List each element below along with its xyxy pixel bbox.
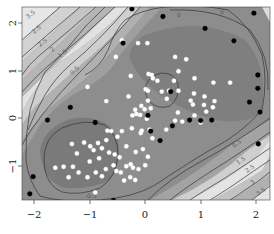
x-tick-label: 1 — [198, 209, 204, 220]
training-point — [143, 163, 147, 167]
training-point — [228, 80, 232, 84]
support-vector-point — [148, 129, 153, 134]
support-vector-point — [158, 138, 163, 143]
training-point — [66, 175, 70, 179]
training-point — [114, 55, 118, 59]
support-vector-point — [255, 86, 260, 91]
support-vector-point — [258, 110, 263, 115]
support-vector-point — [209, 118, 214, 123]
training-point — [88, 159, 92, 163]
x-tick-label: 0 — [142, 209, 148, 220]
training-point — [142, 107, 146, 111]
y-axis: 2 1 0 −1 — [7, 20, 22, 174]
training-point — [173, 55, 177, 59]
support-vector-point — [27, 191, 32, 196]
training-point — [211, 80, 215, 84]
training-point — [122, 178, 126, 182]
training-point — [82, 140, 86, 144]
plot-area: 3.5 2.5 2.5 2 1.5 0.5 0 0 -0.5 0.5 1.5 2… — [22, 6, 270, 203]
training-point — [104, 167, 108, 171]
training-point — [104, 138, 108, 142]
training-point — [113, 152, 117, 156]
training-point — [70, 142, 74, 146]
training-point — [141, 147, 145, 151]
training-point — [88, 144, 92, 148]
y-tick-label: −1 — [7, 159, 18, 174]
x-tick-label: −1 — [83, 209, 98, 220]
training-point — [192, 113, 196, 117]
training-point — [109, 129, 113, 133]
training-point — [191, 102, 195, 106]
support-vector-point — [45, 118, 50, 123]
training-point — [130, 113, 134, 117]
x-tick-label: 2 — [253, 209, 259, 220]
training-point — [100, 174, 104, 178]
training-point — [202, 94, 206, 98]
training-point — [76, 170, 80, 174]
contour-chart: 3.5 2.5 2.5 2 1.5 0.5 0 0 -0.5 0.5 1.5 2… — [0, 0, 274, 234]
support-vector-point — [168, 89, 173, 94]
training-point — [140, 128, 144, 132]
training-point — [138, 113, 142, 117]
training-point — [212, 99, 216, 103]
training-point — [126, 94, 130, 98]
y-tick-label: 1 — [7, 68, 18, 74]
y-tick-label: 0 — [7, 115, 18, 121]
training-point — [71, 165, 75, 169]
training-point — [160, 89, 164, 93]
training-point — [176, 69, 180, 73]
training-point — [134, 150, 138, 154]
support-vector-point — [121, 41, 126, 46]
training-point — [149, 106, 153, 110]
training-point — [130, 126, 134, 130]
training-point — [184, 57, 188, 61]
training-point — [204, 109, 208, 113]
training-point — [93, 190, 97, 194]
training-point — [145, 41, 149, 45]
training-point — [151, 76, 155, 80]
training-point — [114, 169, 118, 173]
training-point — [172, 79, 176, 83]
training-point — [176, 110, 180, 114]
support-vector-point — [93, 120, 98, 125]
support-vector-point — [256, 142, 261, 147]
training-point — [136, 41, 140, 45]
support-vector-point — [232, 38, 237, 43]
training-point — [85, 175, 89, 179]
training-point — [133, 108, 137, 112]
support-vector-point — [170, 123, 175, 128]
training-point — [211, 105, 215, 109]
training-point — [202, 103, 206, 107]
training-point — [173, 118, 177, 122]
training-point — [100, 146, 104, 150]
training-point — [96, 141, 100, 145]
training-point — [94, 170, 98, 174]
support-vector-point — [252, 11, 257, 16]
training-point — [155, 79, 159, 83]
training-point — [176, 89, 180, 93]
training-point — [164, 127, 168, 131]
training-point — [61, 165, 65, 169]
training-point — [97, 156, 101, 160]
svg-text:0: 0 — [220, 8, 224, 15]
support-vector-point — [68, 105, 73, 110]
support-vector-point — [198, 118, 203, 123]
training-point — [119, 170, 123, 174]
training-point — [165, 97, 169, 101]
training-point — [180, 119, 184, 123]
support-vector-point — [255, 73, 260, 78]
svg-text:0: 0 — [177, 11, 181, 18]
support-vector-point — [161, 14, 166, 19]
training-point — [107, 150, 111, 154]
training-point — [134, 112, 138, 116]
y-tick-label: 2 — [7, 20, 18, 26]
training-point — [128, 175, 132, 179]
training-point — [139, 104, 143, 108]
training-point — [117, 155, 121, 159]
training-point — [189, 98, 193, 102]
support-vector-point — [111, 198, 116, 203]
training-point — [53, 166, 57, 170]
training-point — [129, 74, 133, 78]
x-axis: −2 −1 0 1 2 — [27, 200, 260, 220]
support-vector-point — [187, 118, 192, 123]
